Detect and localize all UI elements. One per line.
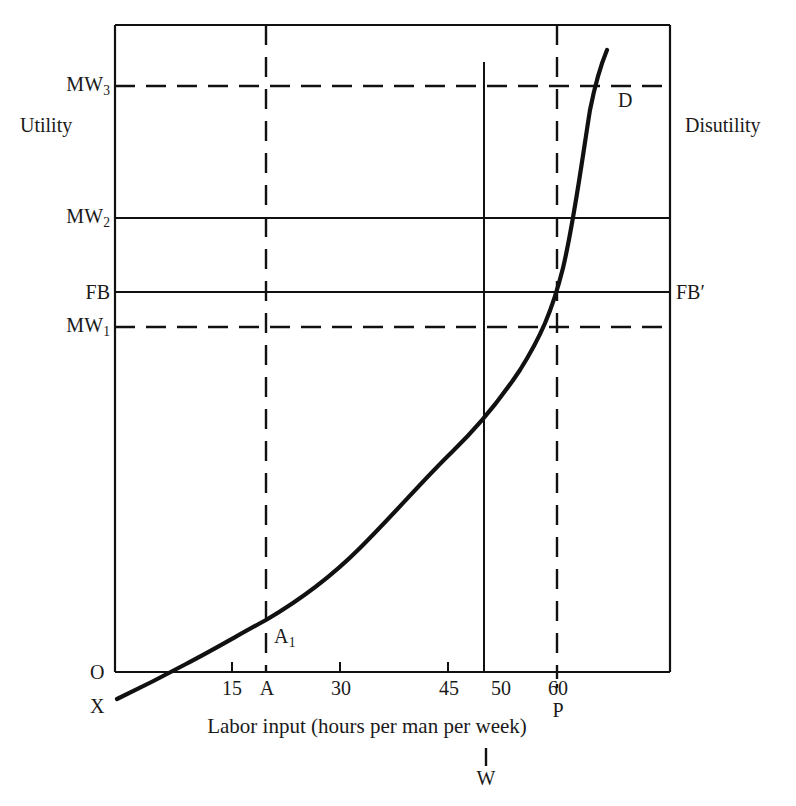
x-tick-label-a: A xyxy=(260,678,274,698)
vertical-reference-lines xyxy=(266,25,557,672)
axis-marker-label-p: P xyxy=(552,700,563,720)
level-label-mw1: MW1 xyxy=(66,315,110,339)
level-label-mw2: MW2 xyxy=(66,206,110,230)
level-label-mw3: MW3 xyxy=(66,74,110,98)
x-tick-label-60: 60 xyxy=(548,678,568,698)
diagram-canvas xyxy=(0,0,796,806)
x-tick-label-45: 45 xyxy=(439,678,459,698)
curve-point-label-a1: A1 xyxy=(274,626,295,650)
axis-marker-label-w: W xyxy=(477,768,496,788)
y-axis-label-disutility: Disutility xyxy=(685,115,761,135)
level-label-fb-prime: FB′ xyxy=(676,282,705,302)
curve-end-label-d: D xyxy=(618,90,632,110)
figure-root: MW3 MW2 FB MW1 Utility Disutility FB′ O … xyxy=(0,0,796,806)
x-axis-caption: Labor input (hours per man per week) xyxy=(207,716,527,737)
disutility-curve xyxy=(117,50,607,699)
x-tick-label-15: 15 xyxy=(222,678,242,698)
x-tick-label-50: 50 xyxy=(491,678,511,698)
level-label-fb: FB xyxy=(86,282,110,302)
y-axis-label-utility: Utility xyxy=(20,115,72,135)
origin-label: O xyxy=(90,662,104,682)
x-tick-label-30: 30 xyxy=(331,678,351,698)
x-axis-ticks xyxy=(232,662,448,672)
curve-origin-label-x: X xyxy=(90,696,104,716)
